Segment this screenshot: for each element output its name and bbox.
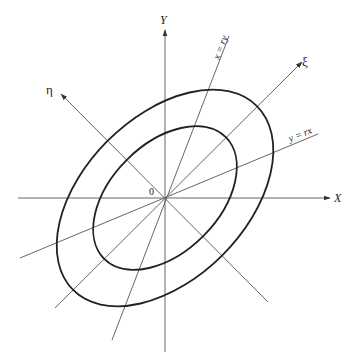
origin-label: 0 (149, 186, 154, 197)
line-x-ry (112, 36, 229, 340)
ellipse-diagram: Y X ξ η 0 y = rx x = ry (0, 0, 348, 364)
x-axis-label: X (333, 191, 342, 205)
xi-axis (55, 62, 302, 308)
y-axis-label: Y (160, 13, 168, 27)
eta-axis-label: η (46, 82, 53, 97)
xi-axis-label: ξ (302, 54, 308, 69)
line-x-ry-label: x = ry (210, 33, 230, 61)
